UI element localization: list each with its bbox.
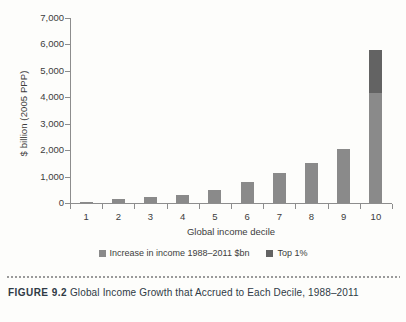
bar-group (112, 199, 125, 203)
x-axis-tick-label: 10 (360, 211, 392, 223)
bar-group (80, 202, 93, 203)
bar-segment-increase (80, 202, 93, 203)
x-axis-tick-label: 5 (199, 211, 231, 223)
x-axis-tick-mark (102, 204, 103, 209)
bar-segment-increase (144, 197, 157, 203)
x-axis-tick-label: 3 (134, 211, 166, 223)
bar-group (208, 190, 221, 203)
figure-caption: FIGURE 9.2 Global Income Growth that Acc… (8, 286, 400, 300)
bar-group (273, 173, 286, 203)
x-axis-tick-mark (167, 204, 168, 209)
bar-series-layer (70, 18, 392, 203)
legend-entry: Top 1% (266, 248, 307, 258)
x-axis-tick-mark (134, 204, 135, 209)
bar-group (176, 195, 189, 203)
bar-group (369, 50, 382, 203)
x-axis-tick-mark (199, 204, 200, 209)
y-axis-tick-labels: 01,0002,0003,0004,0005,0006,0007,000 (18, 12, 64, 204)
bar-group (337, 149, 350, 203)
legend-swatch-icon (99, 250, 106, 257)
x-axis-tick-label: 7 (263, 211, 295, 223)
x-axis-tick-mark (263, 204, 264, 209)
bar-segment-top1 (369, 50, 382, 94)
chart-plot-area: $ billion (2005 PPP) 01,0002,0003,0004,0… (0, 0, 406, 245)
y-axis-tick-label: 1,000 (18, 172, 64, 182)
bar-group (241, 182, 254, 203)
bar-segment-increase (112, 199, 125, 203)
x-axis-tick-mark (392, 204, 393, 209)
x-axis-tick-label: 6 (231, 211, 263, 223)
bar-segment-increase (305, 163, 318, 203)
x-axis-tick-mark (360, 204, 361, 209)
y-axis-tick-label: 3,000 (18, 119, 64, 129)
bar-segment-increase (273, 173, 286, 203)
y-axis-tick-label: 5,000 (18, 66, 64, 76)
y-axis-tick-label: 0 (18, 198, 64, 208)
x-axis-tick-label: 9 (328, 211, 360, 223)
x-axis-tick-mark (328, 204, 329, 209)
bar-group (144, 197, 157, 203)
legend-swatch-icon (266, 250, 273, 257)
y-axis-tick-label: 6,000 (18, 39, 64, 49)
bar-segment-increase (369, 93, 382, 203)
bar-segment-increase (176, 195, 189, 203)
x-axis-tick-label: 4 (167, 211, 199, 223)
x-axis-tick-mark (295, 204, 296, 209)
x-axis-tick-label: 8 (295, 211, 327, 223)
x-axis-title: Global income decile (70, 226, 392, 237)
bar-segment-increase (241, 182, 254, 203)
y-axis-tick-label: 4,000 (18, 92, 64, 102)
y-axis-tick-label: 2,000 (18, 145, 64, 155)
legend-label: Increase in income 1988–2011 $bn (110, 248, 250, 258)
caption-figure-number: FIGURE 9.2 (8, 287, 67, 298)
legend-label: Top 1% (277, 248, 307, 258)
x-axis-tick-labels: 12345678910 (70, 211, 392, 225)
figure-container: $ billion (2005 PPP) 01,0002,0003,0004,0… (0, 0, 406, 322)
legend-entry: Increase in income 1988–2011 $bn (99, 248, 250, 258)
bar-segment-increase (208, 190, 221, 203)
x-axis-tick-mark (231, 204, 232, 209)
caption-divider (6, 276, 400, 278)
x-axis-tick-label: 1 (70, 211, 102, 223)
x-axis-tick-label: 2 (102, 211, 134, 223)
caption-text: Global Income Growth that Accrued to Eac… (67, 287, 359, 298)
bar-segment-increase (337, 149, 350, 203)
x-axis-tick-mark (70, 204, 71, 209)
y-axis-tick-label: 7,000 (18, 13, 64, 23)
chart-legend: Increase in income 1988–2011 $bnTop 1% (0, 248, 406, 258)
bar-group (305, 163, 318, 203)
